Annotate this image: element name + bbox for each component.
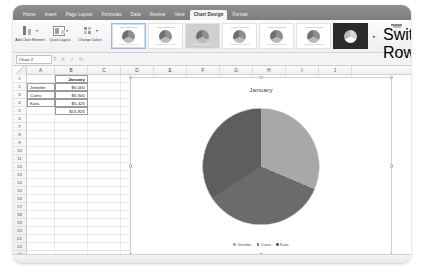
row-header-10[interactable]: 10	[13, 147, 26, 155]
cell-A15[interactable]	[27, 187, 55, 195]
row-header-8[interactable]: 8	[13, 131, 26, 139]
cell-A18[interactable]	[27, 211, 55, 219]
cell-A6[interactable]	[27, 115, 55, 123]
cell-B16[interactable]	[55, 195, 88, 203]
column-header-b[interactable]: B	[55, 66, 88, 75]
row-header-4[interactable]: 4	[13, 99, 26, 107]
cell-C22[interactable]	[88, 243, 121, 251]
cell-A8[interactable]	[27, 131, 55, 139]
cell-A21[interactable]	[27, 235, 55, 243]
resize-handle-n[interactable]	[259, 76, 262, 79]
cell-B13[interactable]	[55, 171, 88, 179]
column-header-g[interactable]: G	[220, 66, 253, 75]
tab-formulas[interactable]: Formulas	[98, 10, 126, 20]
row-header-15[interactable]: 15	[13, 187, 26, 195]
cell-A17[interactable]	[27, 203, 55, 211]
resize-handle-nw[interactable]	[129, 76, 132, 79]
cell-C4[interactable]	[88, 99, 121, 107]
gallery-more-button[interactable]: ▸	[370, 33, 379, 39]
cell-B6[interactable]	[55, 115, 88, 123]
enter-icon[interactable]: ✓	[70, 56, 74, 62]
cell-C7[interactable]	[88, 123, 121, 131]
cell-B19[interactable]	[55, 219, 88, 227]
cell-C21[interactable]	[88, 235, 121, 243]
row-header-9[interactable]: 9	[13, 139, 26, 147]
cell-C14[interactable]	[88, 179, 121, 187]
cell-A19[interactable]	[27, 219, 55, 227]
cell-A16[interactable]	[27, 195, 55, 203]
cell-C5[interactable]	[88, 107, 121, 115]
cell-C19[interactable]	[88, 219, 121, 227]
cell-C20[interactable]	[88, 227, 121, 235]
tab-data[interactable]: Data	[127, 10, 145, 20]
legend-item-kara[interactable]: Kara	[276, 242, 288, 247]
name-box[interactable]: Chart 2	[16, 55, 52, 64]
tab-insert[interactable]: Insert	[41, 10, 61, 20]
cell-A7[interactable]	[27, 123, 55, 131]
column-header-i[interactable]: I	[286, 66, 319, 75]
tab-view[interactable]: View	[170, 10, 188, 20]
cell-A4[interactable]: Kara	[27, 99, 55, 107]
column-header-j[interactable]: J	[319, 66, 352, 75]
cell-B21[interactable]	[55, 235, 88, 243]
cell-A10[interactable]	[27, 147, 55, 155]
select-all-corner[interactable]	[13, 66, 27, 75]
legend-item-curtis[interactable]: Curtis	[257, 242, 271, 247]
column-header-d[interactable]: D	[121, 66, 154, 75]
cell-A22[interactable]	[27, 243, 55, 251]
chart-style-option-1[interactable]	[111, 23, 146, 49]
cell-B12[interactable]	[55, 163, 88, 171]
row-header-1[interactable]: 1	[13, 75, 26, 83]
resize-handle-e[interactable]	[390, 164, 393, 167]
cell-A2[interactable]: Jennifer	[27, 83, 55, 91]
change-colors-button[interactable]: ▾ Change Colors	[75, 21, 105, 51]
cell-B2[interactable]: $5,000	[55, 83, 88, 91]
cell-C8[interactable]	[88, 131, 121, 139]
cell-B3[interactable]: $5,500	[55, 91, 88, 99]
cell-A3[interactable]: Curtis	[27, 91, 55, 99]
column-header-a[interactable]: A	[27, 66, 55, 75]
chart-style-option-3[interactable]	[185, 23, 220, 49]
chart-style-option-2[interactable]	[148, 23, 183, 49]
cell-B7[interactable]	[55, 123, 88, 131]
cell-B4[interactable]: $5,425	[55, 99, 88, 107]
cell-A13[interactable]	[27, 171, 55, 179]
cell-C3[interactable]	[88, 91, 121, 99]
formula-input[interactable]	[87, 55, 408, 64]
row-header-7[interactable]: 7	[13, 123, 26, 131]
resize-handle-w[interactable]	[129, 164, 132, 167]
cell-A20[interactable]	[27, 227, 55, 235]
cell-B5[interactable]: $15,925	[55, 107, 88, 115]
cell-C13[interactable]	[88, 171, 121, 179]
row-header-20[interactable]: 20	[13, 227, 26, 235]
cell-A1[interactable]	[27, 75, 55, 83]
cell-B11[interactable]	[55, 155, 88, 163]
cell-B20[interactable]	[55, 227, 88, 235]
column-header-c[interactable]: C	[88, 66, 121, 75]
cell-C6[interactable]	[88, 115, 121, 123]
cell-C18[interactable]	[88, 211, 121, 219]
cell-B17[interactable]	[55, 203, 88, 211]
legend-item-jennifer[interactable]: Jennifer	[233, 242, 251, 247]
row-header-18[interactable]: 18	[13, 211, 26, 219]
chart-style-option-7[interactable]	[333, 23, 368, 49]
cell-A14[interactable]	[27, 179, 55, 187]
name-box-spinner[interactable]: ▴▾	[54, 56, 56, 62]
cell-C12[interactable]	[88, 163, 121, 171]
cell-B18[interactable]	[55, 211, 88, 219]
pie-chart-object[interactable]: January Jennifer Curtis Kara	[130, 77, 392, 255]
cell-B8[interactable]	[55, 131, 88, 139]
tab-format[interactable]: Format	[228, 10, 251, 20]
column-header-f[interactable]: F	[187, 66, 220, 75]
row-header-16[interactable]: 16	[13, 195, 26, 203]
cell-C16[interactable]	[88, 195, 121, 203]
cell-B9[interactable]	[55, 139, 88, 147]
cell-C17[interactable]	[88, 203, 121, 211]
cell-A5[interactable]	[27, 107, 55, 115]
tab-page-layout[interactable]: Page Layout	[62, 10, 97, 20]
row-header-14[interactable]: 14	[13, 179, 26, 187]
switch-row-column-button[interactable]: Switch Row/Column	[383, 21, 409, 51]
cell-A12[interactable]	[27, 163, 55, 171]
row-header-13[interactable]: 13	[13, 171, 26, 179]
row-header-22[interactable]: 22	[13, 243, 26, 251]
